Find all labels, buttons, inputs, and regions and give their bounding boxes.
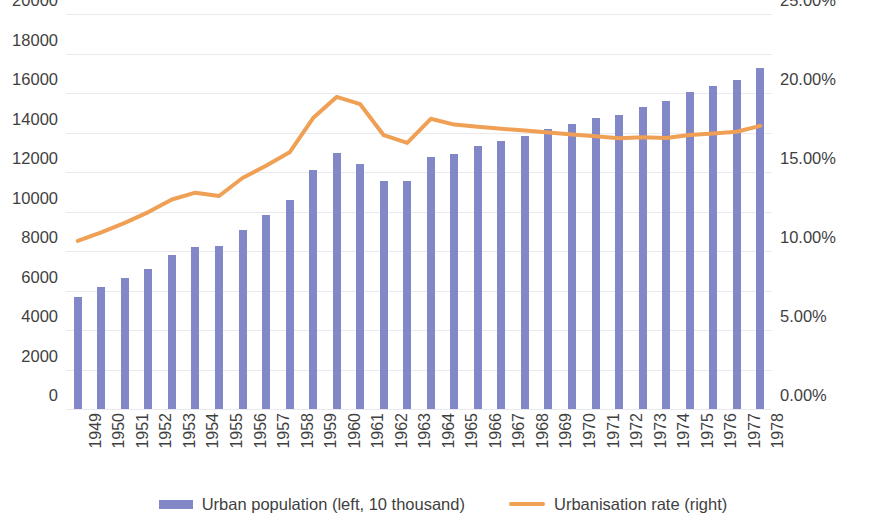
x-axis-tick-1970: 1970 [580,413,600,485]
chart-legend: Urban population (left, 10 thousand) Urb… [0,489,886,519]
right-axis-tick-labels: 0.00%5.00%10.00%15.00%20.00%25.00% [780,0,886,395]
line-series-urbanisation-rate [66,14,772,409]
x-axis-tick-1975: 1975 [698,413,718,485]
x-axis-tick-1954: 1954 [203,413,223,485]
left-axis-tick-14000: 14000 [12,111,58,128]
x-axis-tick-1958: 1958 [298,413,318,485]
gridline [66,409,772,410]
left-axis-tick-8000: 8000 [21,229,58,246]
x-axis-tick-1959: 1959 [321,413,341,485]
x-axis-tick-1974: 1974 [674,413,694,485]
x-axis-tick-1969: 1969 [556,413,576,485]
x-axis-tick-1962: 1962 [392,413,412,485]
x-axis-tick-1968: 1968 [533,413,553,485]
x-axis-tick-1960: 1960 [345,413,365,485]
x-axis-tick-1956: 1956 [251,413,271,485]
x-axis-tick-1973: 1973 [651,413,671,485]
urbanisation-rate-polyline [78,97,760,241]
x-axis-tick-1961: 1961 [368,413,388,485]
x-axis-tick-labels: 1949195019511952195319541955195619571958… [66,413,772,485]
x-axis-tick-1952: 1952 [156,413,176,485]
x-axis-tick-1953: 1953 [180,413,200,485]
legend-item-urbanisation-rate: Urbanisation rate (right) [509,495,727,514]
x-axis-tick-1977: 1977 [745,413,765,485]
x-axis-tick-1978: 1978 [768,413,788,485]
left-axis-tick-2000: 2000 [21,348,58,365]
x-axis-tick-1976: 1976 [721,413,741,485]
right-axis-tick-5: 25.00% [780,0,836,9]
right-axis-tick-0: 0.00% [780,387,827,404]
left-axis-tick-10000: 10000 [12,190,58,207]
x-axis-tick-1964: 1964 [439,413,459,485]
x-axis-tick-1966: 1966 [486,413,506,485]
left-axis-tick-18000: 18000 [12,32,58,49]
x-axis-tick-1955: 1955 [227,413,247,485]
left-axis-tick-labels: 0200040006000800010000120001400016000180… [0,0,58,395]
right-axis-tick-4: 20.00% [780,71,836,88]
legend-label-urban-population: Urban population (left, 10 thousand) [202,495,465,514]
x-axis-tick-1972: 1972 [627,413,647,485]
left-axis-tick-0: 0 [49,387,58,404]
x-axis-tick-1971: 1971 [604,413,624,485]
x-axis-tick-1949: 1949 [86,413,106,485]
x-axis-tick-1967: 1967 [509,413,529,485]
left-axis-tick-12000: 12000 [12,150,58,167]
x-axis-tick-1957: 1957 [274,413,294,485]
legend-item-urban-population: Urban population (left, 10 thousand) [159,495,465,514]
right-axis-tick-1: 5.00% [780,308,827,325]
left-axis-tick-6000: 6000 [21,269,58,286]
left-axis-tick-16000: 16000 [12,71,58,88]
legend-label-urbanisation-rate: Urbanisation rate (right) [554,495,727,514]
x-axis-tick-1963: 1963 [415,413,435,485]
left-axis-tick-20000: 20000 [12,0,58,9]
urbanisation-chart: 0200040006000800010000120001400016000180… [0,0,886,519]
bar-swatch-icon [159,500,193,509]
plot-area [66,14,772,409]
x-axis-tick-1950: 1950 [109,413,129,485]
x-axis-tick-1965: 1965 [462,413,482,485]
line-swatch-icon [509,502,545,506]
right-axis-tick-2: 10.00% [780,229,836,246]
x-axis-tick-1951: 1951 [133,413,153,485]
right-axis-tick-3: 15.00% [780,150,836,167]
left-axis-tick-4000: 4000 [21,308,58,325]
